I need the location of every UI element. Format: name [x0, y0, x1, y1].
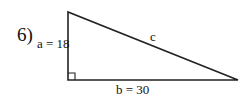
problem-number: 6) [17, 25, 33, 44]
side-b-label: b = 30 [116, 83, 149, 96]
triangle-outline [68, 12, 238, 80]
side-a-label: a = 18 [37, 37, 70, 50]
hypotenuse-label: c [150, 30, 156, 43]
right-angle-marker [68, 73, 75, 80]
